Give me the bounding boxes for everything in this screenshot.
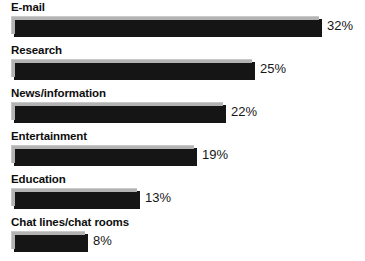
value-label: 19% <box>202 145 228 164</box>
chart-row: News/information 22% <box>0 86 365 129</box>
category-label: Research <box>11 43 62 58</box>
bar-container <box>11 231 85 252</box>
chart-row: E-mail 32% <box>0 0 365 43</box>
value-label: 13% <box>145 188 171 207</box>
chart-row: Research 25% <box>0 43 365 86</box>
category-label: E-mail <box>11 0 45 15</box>
category-label: Education <box>11 172 66 187</box>
bar <box>11 188 137 206</box>
bar <box>11 102 223 120</box>
category-label: News/information <box>11 86 106 101</box>
horizontal-bar-chart: E-mail 32% Research 25% News/information… <box>0 0 365 261</box>
bar <box>11 16 319 34</box>
bar <box>11 145 194 163</box>
bar-container <box>11 16 319 37</box>
category-label: Chat lines/chat rooms <box>11 215 129 230</box>
chart-row: Entertainment 19% <box>0 129 365 172</box>
value-label: 8% <box>93 231 112 250</box>
category-label: Entertainment <box>11 129 87 144</box>
bar <box>11 59 252 77</box>
value-label: 22% <box>231 102 257 121</box>
chart-row: Education 13% <box>0 172 365 215</box>
value-label: 32% <box>327 16 353 35</box>
bar-container <box>11 102 223 123</box>
bar <box>11 231 85 249</box>
bar-container <box>11 59 252 80</box>
bar-container <box>11 188 137 209</box>
chart-row: Chat lines/chat rooms 8% <box>0 215 365 258</box>
bar-container <box>11 145 194 166</box>
value-label: 25% <box>260 59 286 78</box>
